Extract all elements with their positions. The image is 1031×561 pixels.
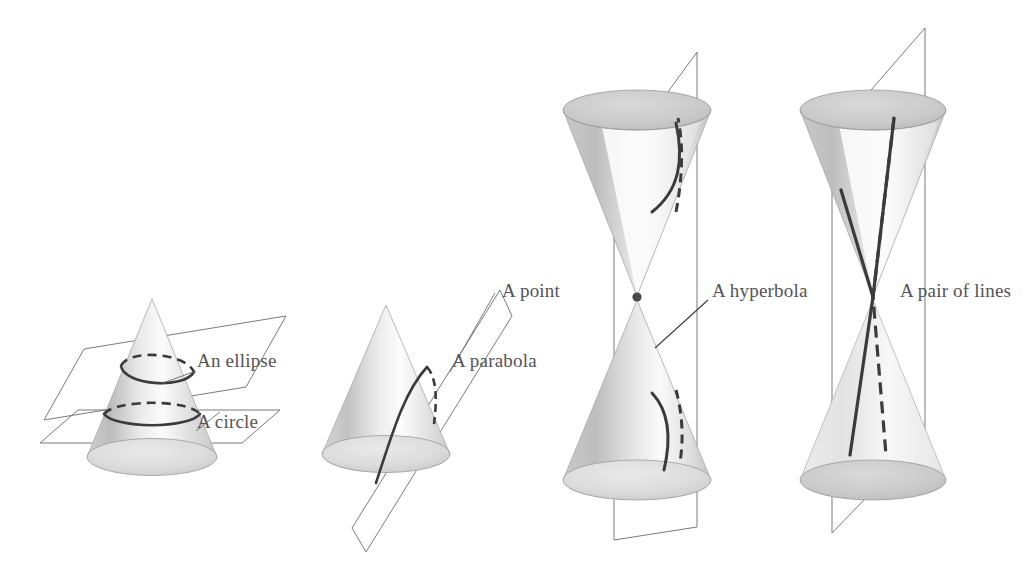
- cone-3-lower-base: [563, 460, 711, 500]
- cone-1-base-ellipse: [87, 439, 217, 476]
- panel-parabola: A parabola: [322, 290, 537, 552]
- label-an-ellipse: An ellipse: [197, 350, 277, 371]
- panel-pair-of-lines: A pair of lines: [800, 28, 1011, 533]
- cone-4-lower-base: [800, 460, 946, 500]
- label-a-hyperbola: A hyperbola: [712, 280, 808, 301]
- vertex-point-marker: [632, 292, 641, 301]
- label-a-circle: A circle: [197, 411, 258, 432]
- conic-sections-figure: An ellipse A circle A parabola: [0, 0, 1031, 561]
- label-a-parabola: A parabola: [452, 350, 537, 371]
- panel-point-hyperbola: A point A hyperbola: [502, 52, 808, 540]
- label-a-point: A point: [502, 280, 560, 301]
- panel-ellipse-circle: An ellipse A circle: [40, 299, 286, 476]
- label-a-pair-of-lines: A pair of lines: [900, 280, 1011, 301]
- cone-2: [322, 305, 450, 473]
